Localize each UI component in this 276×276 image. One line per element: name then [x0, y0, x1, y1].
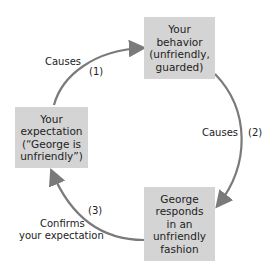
- edge-1-label: Causes: [45, 56, 81, 68]
- node-expectation: Your expectation (“George is unfriendly”…: [15, 107, 88, 168]
- node-behavior: Your behavior (unfriendly, guarded): [144, 17, 215, 79]
- edge-2-label: Causes: [202, 127, 238, 139]
- node-response: George responds in an unfriendly fashion: [144, 187, 215, 261]
- edge-1-step: (1): [89, 66, 103, 78]
- edge-2-step: (2): [248, 127, 262, 139]
- edge-3-label-line1: Confirms: [40, 218, 85, 230]
- edge-3-label-line2: your expectation: [19, 230, 104, 242]
- arrow-2: [215, 74, 242, 205]
- edge-3-step: (3): [88, 205, 102, 217]
